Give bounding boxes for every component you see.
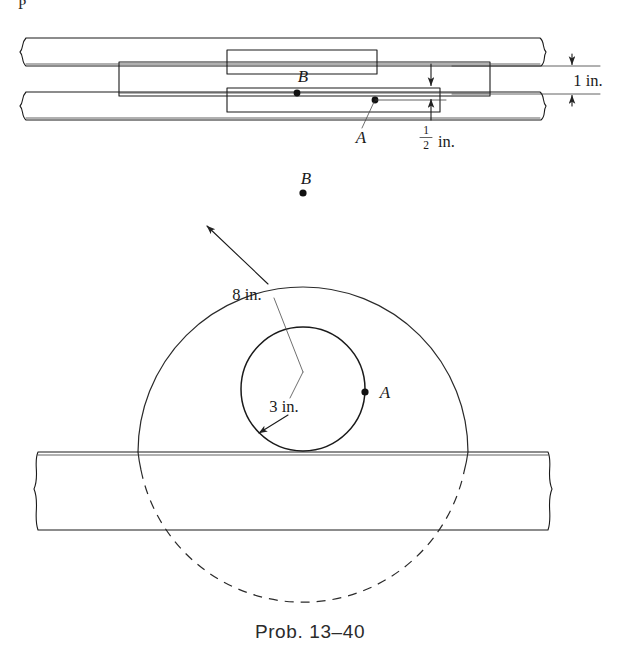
problem-figure: P B A [0,0,620,651]
leader-3in [290,372,303,398]
dimension-8in-label: 8 in. [232,285,261,304]
top-view-assembly: B A 1 in. 1 2 [20,38,603,151]
point-a-leader-top-view [362,102,374,128]
outer-circle-visible [138,287,468,452]
dimension-3in-label: 3 in. [269,397,298,416]
front-view-assembly: B A 8 in. 3 in. [34,169,552,602]
leader-8in [274,298,303,372]
leader-8in-arrow [207,226,268,284]
figure-caption: Prob. 13–40 [255,621,365,642]
point-b-marker-front-view [299,189,306,196]
point-b-marker-top-view [294,90,301,97]
point-b-label-top-view: B [298,67,309,86]
figure-canvas: P B A [0,0,620,651]
dimension-3-in: 3 in. [259,372,303,433]
point-b-label-front-view: B [301,169,312,188]
page-text-fragment: P [18,0,26,12]
dimension-half-unit: in. [438,132,455,151]
point-a-label-front-view: A [379,383,391,402]
dimension-1in-label: 1 in. [573,71,602,90]
dimension-half-in: 1 2 in. [420,64,455,151]
leader-3in-arrow [259,415,288,433]
point-a-label-top-view: A [355,128,367,147]
point-a-marker-front-view [361,388,368,395]
dimension-half-denominator: 2 [423,139,429,151]
outer-circle-hidden [141,470,464,602]
rail-bar-outline [34,452,552,530]
dimension-half-numerator: 1 [423,124,429,136]
